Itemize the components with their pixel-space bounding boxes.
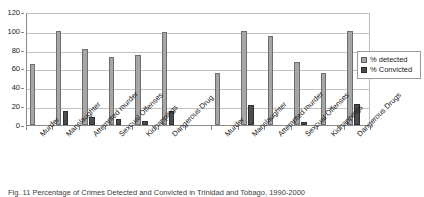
y-tick-label: 20 (12, 103, 20, 111)
x-axis-labels: MurderManslaughterAttempted murderSexcua… (0, 130, 424, 186)
y-tick-label: 80 (12, 47, 20, 55)
y-tick-mark (21, 107, 24, 108)
bar-detected (241, 31, 247, 125)
bar-detected (56, 31, 62, 125)
bar-convicted (116, 119, 122, 125)
y-axis: 120 100 80 60 40 20 0 (0, 13, 24, 126)
y-tick-label: 40 (12, 84, 20, 92)
bar-convicted (89, 117, 95, 125)
y-tick-label: 60 (12, 65, 20, 73)
legend-swatch-icon (361, 67, 367, 73)
legend-swatch-icon (361, 57, 367, 63)
bar-convicted (248, 105, 254, 125)
y-tick-label: 120 (7, 9, 20, 17)
legend-label: % Convicted (370, 65, 412, 75)
bar-convicted (63, 111, 69, 125)
figure-container: 120 100 80 60 40 20 0 (0, 0, 424, 197)
y-tick-mark (21, 13, 24, 14)
y-tick-mark (21, 88, 24, 89)
figure-caption: Fig. 11 Percentage of Crimes Detected an… (8, 188, 420, 197)
legend-item-detected: % detected (361, 55, 417, 65)
y-tick-label: 0 (16, 122, 20, 130)
bar-convicted (301, 122, 307, 125)
y-tick-mark (21, 51, 24, 52)
bar-convicted (142, 121, 148, 125)
y-tick-mark (21, 126, 24, 127)
bar-detected (30, 64, 36, 125)
y-tick-label: 100 (7, 28, 20, 36)
legend-label: % detected (370, 55, 408, 65)
legend-item-convicted: % Convicted (361, 65, 417, 75)
y-tick-mark (21, 32, 24, 33)
chart-legend: % detected % Convicted (357, 51, 421, 79)
y-tick-mark (21, 69, 24, 70)
